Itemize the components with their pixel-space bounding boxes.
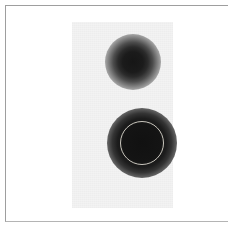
film-panel: [72, 22, 173, 208]
film-grain-texture: [72, 22, 173, 208]
figure-canvas: Grayscale film / autoradiograph panel sh…: [0, 0, 228, 231]
